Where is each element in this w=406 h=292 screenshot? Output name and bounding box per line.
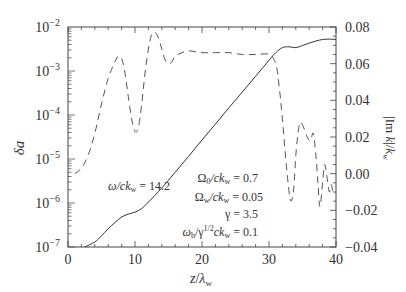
- y-right-tick-label: 0.08: [345, 20, 370, 35]
- parameter-annotations: Ω0/ckw = 0.7 Ωw/ckw = 0.05 γ = 3.5 ωb/γ1…: [182, 171, 263, 240]
- chart-container: 01020304010−210−310−410−510−610−70.080.0…: [0, 0, 406, 292]
- x-tick-label: 30: [262, 252, 276, 267]
- y-right-tick-label: −0.02: [345, 203, 377, 218]
- param-omega0: Ω0/ckw = 0.7: [198, 171, 258, 186]
- param-omegaw: Ωw/ckw = 0.05: [195, 190, 263, 205]
- y-axis-right-label: |Im k|/kw: [381, 116, 398, 160]
- x-tick-label: 20: [195, 252, 209, 267]
- x-tick-label: 0: [65, 252, 72, 267]
- omega-annotation: ω/ckw = 14.2: [108, 179, 170, 194]
- plot-border: [68, 27, 336, 247]
- param-omegab: ωb/γ1/2ckw = 0.1: [182, 224, 258, 240]
- y-right-tick-label: 0.04: [345, 93, 370, 108]
- y-left-tick-label: 10−2: [35, 17, 60, 35]
- y-right-tick-label: 0.00: [345, 167, 370, 182]
- y-left-tick-label: 10−6: [35, 193, 60, 211]
- y-right-tick-label: −0.04: [345, 240, 377, 255]
- param-gamma: γ = 3.5: [224, 207, 258, 221]
- y-left-tick-label: 10−7: [35, 237, 60, 255]
- y-right-tick-label: 0.02: [345, 130, 370, 145]
- y-right-tick-label: 0.06: [345, 57, 370, 72]
- x-tick-label: 10: [128, 252, 142, 267]
- axis-ticks: [68, 27, 336, 247]
- delta-a-solid-line: [85, 39, 336, 247]
- y-left-tick-label: 10−4: [35, 105, 60, 123]
- x-tick-label: 40: [329, 252, 343, 267]
- y-left-tick-label: 10−5: [35, 149, 60, 167]
- y-axis-left-label: δa: [11, 141, 27, 155]
- chart-svg: 01020304010−210−310−410−510−610−70.080.0…: [0, 0, 406, 292]
- x-axis-label: z/λw: [189, 271, 212, 288]
- data-lines: [75, 32, 336, 247]
- y-left-tick-label: 10−3: [35, 61, 60, 79]
- plot-frame: [68, 27, 336, 247]
